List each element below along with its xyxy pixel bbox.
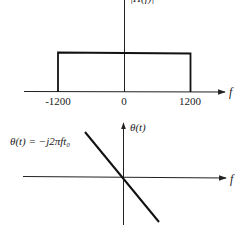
magnitude-plot: |H(f)| f -1200 0 1200 (24, 0, 234, 107)
magnitude-x-label: f (229, 85, 234, 99)
phase-x-axis (23, 177, 226, 179)
tick-0: 0 (121, 95, 127, 107)
phase-plot: θ(t) f θ(t) = −j2πft₀ (10, 121, 235, 225)
phase-y-label: θ(t) (130, 121, 146, 134)
figure: |H(f)| f -1200 0 1200 θ(t) f θ(t) = −j2π… (0, 0, 247, 242)
tick-1200: 1200 (179, 95, 202, 107)
tick-neg-1200: -1200 (45, 95, 71, 107)
phase-x-label: f (230, 172, 235, 186)
magnitude-y-label: |H(f)| (130, 0, 154, 5)
phase-equation: θ(t) = −j2πft₀ (10, 135, 70, 148)
